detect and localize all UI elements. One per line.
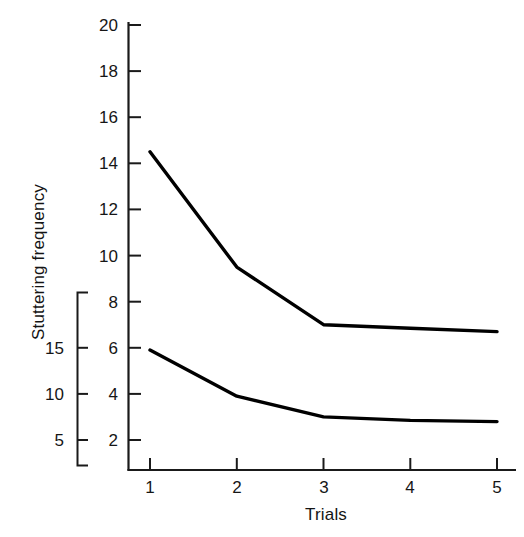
x-tick-label-4: 4 bbox=[395, 479, 425, 496]
x-axis-title: Trials bbox=[128, 505, 524, 525]
y-tick-label-10: 10 bbox=[82, 248, 118, 265]
series-lower-curve bbox=[150, 350, 497, 422]
y-tick-label-16: 16 bbox=[82, 109, 118, 126]
x-tick-label-2: 2 bbox=[222, 479, 252, 496]
secondary-tick-label-5: 5 bbox=[26, 432, 64, 449]
y-tick-label-2: 2 bbox=[82, 432, 118, 449]
x-axis-ticks bbox=[150, 458, 497, 470]
x-tick-label-1: 1 bbox=[135, 479, 165, 496]
y-tick-label-14: 14 bbox=[82, 155, 118, 172]
y-tick-label-8: 8 bbox=[82, 294, 118, 311]
chart-plot-area bbox=[0, 0, 524, 537]
y-tick-label-20: 20 bbox=[82, 17, 118, 34]
y-tick-label-18: 18 bbox=[82, 63, 118, 80]
x-tick-label-5: 5 bbox=[482, 479, 512, 496]
chart-figure: 20 18 16 14 12 10 8 6 4 2 15 10 5 1 2 3 … bbox=[0, 0, 524, 537]
series-upper-curve bbox=[150, 152, 497, 332]
secondary-tick-label-10: 10 bbox=[26, 386, 64, 403]
y-tick-label-4: 4 bbox=[82, 386, 118, 403]
y-axis-ticks bbox=[128, 25, 141, 440]
y-axis-title: Stuttering frequency bbox=[29, 137, 49, 387]
y-tick-label-12: 12 bbox=[82, 201, 118, 218]
y-tick-label-6: 6 bbox=[82, 340, 118, 357]
x-tick-label-3: 3 bbox=[309, 479, 339, 496]
